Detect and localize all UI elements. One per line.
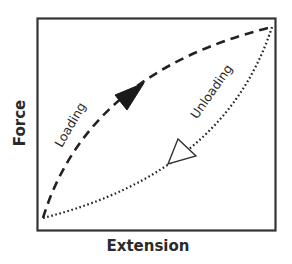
y-axis-label: Force (11, 100, 29, 146)
force-extension-diagram: Loading Unloading Force Extension (0, 0, 292, 264)
x-axis-label: Extension (107, 237, 190, 255)
loading-label: Loading (51, 100, 89, 150)
unloading-arrow-icon (168, 139, 196, 164)
loading-arrow-icon (115, 83, 144, 110)
unloading-label: Unloading (187, 61, 235, 121)
